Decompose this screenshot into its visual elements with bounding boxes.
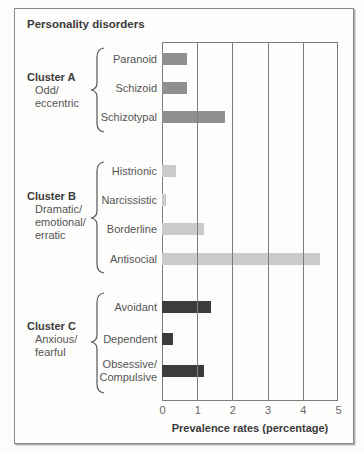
x-tick-label: 5: [329, 404, 349, 416]
category-label: Borderline: [107, 222, 157, 236]
gridline-2: [232, 43, 233, 400]
bar-row-narcissistic: Narcissistic: [0, 194, 364, 206]
x-tick-label: 4: [293, 404, 313, 416]
bar-row-histrionic: Histrionic: [0, 165, 364, 177]
bar-row-schizoid: Schizoid: [0, 82, 364, 94]
bar-row-schizotypal: Schizotypal: [0, 111, 364, 123]
category-label: Antisocial: [110, 252, 157, 266]
category-label: Narcissistic: [101, 193, 157, 207]
x-axis-label: Prevalence rates (percentage): [162, 422, 338, 434]
category-label: Obsessive/ Compulsive: [87, 358, 157, 384]
gridline-4: [303, 43, 304, 400]
bar-row-avoidant: Avoidant: [0, 301, 364, 313]
plot-area: [162, 42, 338, 401]
x-tick-label: 1: [188, 404, 208, 416]
gridline-3: [268, 43, 269, 400]
gridline-1: [197, 43, 198, 400]
x-tick-label: 3: [258, 404, 278, 416]
bar: [162, 165, 176, 177]
category-label: Dependent: [103, 332, 157, 346]
bar-row-antisocial: Antisocial: [0, 253, 364, 265]
bar-row-paranoid: Paranoid: [0, 53, 364, 65]
bar-row-obsessive-compulsive: Obsessive/ Compulsive: [0, 358, 364, 384]
bar: [162, 333, 173, 345]
category-label: Histrionic: [112, 164, 157, 178]
bar: [162, 82, 187, 94]
bar: [162, 111, 225, 123]
bar-row-borderline: Borderline: [0, 223, 364, 235]
bar: [162, 301, 211, 313]
bar: [162, 253, 320, 265]
bar: [162, 194, 166, 206]
cluster-description: eccentric: [27, 97, 79, 110]
cluster-name: Cluster C: [27, 320, 77, 333]
bar-row-dependent: Dependent: [0, 333, 364, 345]
category-label: Avoidant: [114, 300, 157, 314]
x-tick-label: 2: [223, 404, 243, 416]
bar: [162, 53, 187, 65]
category-label: Paranoid: [113, 52, 157, 66]
x-tick-label: 0: [153, 404, 173, 416]
chart-title: Personality disorders: [27, 18, 145, 30]
category-label: Schizotypal: [101, 110, 157, 124]
category-label: Schizoid: [115, 81, 157, 95]
